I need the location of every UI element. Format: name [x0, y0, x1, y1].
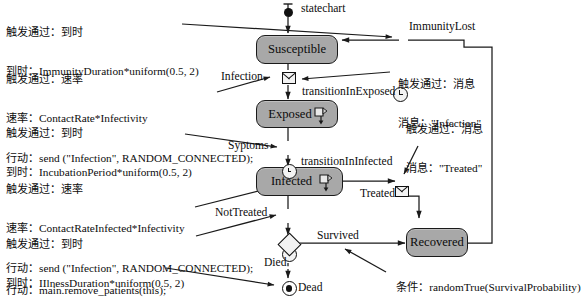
note-illness-trigger-line: 触发通过：到时: [6, 239, 184, 251]
state-susceptible[interactable]: Susceptible: [256, 35, 338, 64]
transition-label-transition-in-exposed: transitionInExposed: [302, 85, 395, 98]
note-infection-msg-trigger-line: 触发通过：消息: [398, 79, 481, 91]
note-immunity-trigger-line: 触发通过：到时: [6, 27, 199, 39]
state-susceptible-label: Susceptible: [268, 42, 326, 57]
state-recovered[interactable]: Recovered: [406, 228, 468, 257]
entry-point-label: statechart: [301, 2, 345, 15]
note-remove-action-label: 行动：: [6, 284, 39, 297]
internal-transition-glyph-exposed: [312, 106, 330, 126]
note-treated-msg-trigger-line: 触发通过：消息: [406, 124, 483, 136]
transition-label-immunity-lost: ImmunityLost: [409, 20, 475, 33]
transition-label-treated: Treated: [360, 187, 395, 200]
timeout-trigger-syptoms-icon[interactable]: [282, 164, 297, 179]
final-state-label-dead: Dead: [298, 281, 322, 294]
state-recovered-label: Recovered: [410, 235, 464, 250]
branch-condition: 条件：randomTrue(SurvivalProbability): [385, 266, 581, 302]
note-remove-patients-action: 行动：main.remove_patients(this);: [6, 261, 166, 302]
branch-condition-prefix: 条件：: [396, 281, 429, 294]
note-treated-msg-label: 消息：: [406, 162, 439, 175]
state-infected[interactable]: Infected: [256, 167, 343, 196]
note-incubation-trigger-line: 触发通过：到时: [6, 128, 192, 140]
state-exposed-label: Exposed: [268, 107, 311, 122]
transition-label-survived: Survived: [317, 229, 359, 242]
note-infection-trigger-line: 触发通过：速率: [6, 74, 253, 86]
note-infected-trigger-line: 触发通过：速率: [6, 184, 253, 196]
transition-label-died: Died: [264, 256, 287, 269]
initial-state-node: [284, 8, 293, 17]
internal-transition-glyph-infected: [317, 173, 335, 193]
note-treated-msg-value: "Treated": [439, 162, 482, 174]
message-trigger-infection-icon[interactable]: [282, 72, 296, 84]
final-state-dead[interactable]: [282, 281, 297, 296]
note-treated-message: 触发通过：消息 消息："Treated": [406, 100, 483, 199]
state-exposed[interactable]: Exposed: [256, 100, 338, 128]
transition-label-transition-in-infected: transitionInInfected: [301, 155, 392, 168]
note-remove-action-value: main.remove_patients(this);: [39, 284, 166, 296]
branch-condition-expression: randomTrue(SurvivalProbability): [429, 281, 580, 293]
